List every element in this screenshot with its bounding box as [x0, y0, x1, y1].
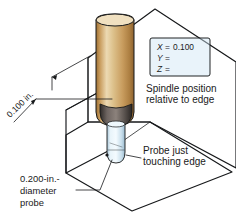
spindle-position-label-line1: Spindle position: [146, 83, 217, 94]
technical-illustration: X = 0.100 Y = Z = Spindle position relat…: [0, 0, 236, 224]
spindle-position-label-line2: relative to edge: [146, 94, 215, 105]
contact-point-marker: [105, 153, 108, 156]
probe-stylus: [107, 121, 125, 163]
probe-touching-leader: [126, 155, 141, 158]
readout-equals-y: =: [165, 53, 170, 63]
probe-touching-label-line1: Probe just: [143, 145, 188, 156]
tool-top-ellipse: [96, 14, 134, 26]
readout-value-x: 0.100: [173, 42, 194, 52]
readout-axis-z: Z: [156, 64, 163, 74]
readout-equals-x: =: [165, 42, 170, 52]
probe-touching-label-line2: touching edge: [143, 156, 206, 167]
offset-dimension-arrowhead: [31, 99, 36, 105]
probe-top-ellipse: [107, 121, 125, 127]
probe-diameter-label-line1: 0.200-in.-: [20, 173, 60, 184]
illustration-canvas: X = 0.100 Y = Z = Spindle position relat…: [0, 0, 236, 224]
readout-equals-z: =: [165, 64, 170, 74]
probe-diameter-label-line2: diameter: [20, 185, 56, 196]
readout-axis-x: X: [156, 42, 163, 52]
probe-diameter-label-line3: probe: [20, 197, 44, 208]
offset-witness-line: [52, 56, 90, 77]
